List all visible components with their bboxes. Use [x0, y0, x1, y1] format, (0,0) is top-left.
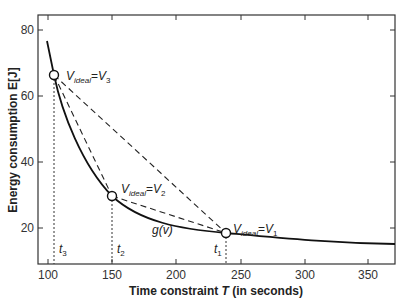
drop-lines [54, 75, 226, 264]
x-tick-label: 250 [231, 268, 251, 282]
point-v2 [108, 192, 117, 201]
x-tick-label: 100 [38, 268, 58, 282]
y-tick-label: 60 [21, 89, 35, 103]
x-tick-label: 150 [102, 268, 122, 282]
x-tick-labels: 100 150 200 250 300 350 [38, 268, 378, 282]
x-tick-label: 200 [166, 268, 186, 282]
label-g-v: g(v) [152, 223, 173, 237]
x-tick-label: 350 [358, 268, 378, 282]
y-tick-label: 20 [21, 221, 35, 235]
label-v3: Videal=V3 [66, 69, 111, 85]
label-t1: t1 [214, 242, 222, 258]
label-v1: Videal=V1 [233, 222, 278, 238]
y-axis-label: Energy consumption E[J] [6, 67, 20, 212]
y-tick-label: 40 [21, 155, 35, 169]
chords [54, 75, 226, 233]
label-t3: t3 [59, 242, 67, 258]
y-tick-labels: 20 40 60 80 [21, 23, 35, 235]
y-axis [38, 30, 395, 228]
x-axis-label: Time constraint T (in seconds) [129, 284, 303, 298]
point-v3 [50, 71, 59, 80]
x-tick-label: 300 [295, 268, 315, 282]
label-t2: t2 [117, 242, 125, 258]
y-tick-label: 80 [21, 23, 35, 37]
label-v2: Videal=V2 [121, 182, 166, 198]
chart: 100 150 200 250 300 350 20 40 60 80 Time… [0, 0, 406, 301]
plot-frame [38, 15, 395, 264]
point-v1 [222, 229, 231, 238]
